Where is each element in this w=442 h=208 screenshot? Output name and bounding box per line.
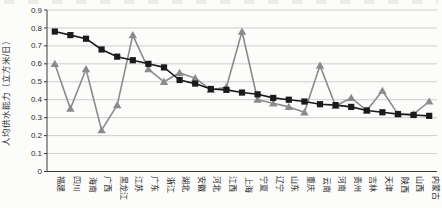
x-tick-label: 陕西 — [400, 177, 410, 193]
triangle-marker — [316, 62, 324, 69]
x-tick-label: 湖北 — [181, 177, 190, 193]
x-tick-label: 重庆 — [306, 177, 316, 193]
x-tick-label: 广东 — [150, 177, 160, 193]
x-axis-labels: 福建四川海南广西黑龙江江苏广东浙江湖北安徽河北江西上海宁夏辽宁山东重庆云南河南贵… — [56, 177, 440, 201]
square-marker — [239, 89, 245, 95]
y-tick-label: 0 — [38, 167, 43, 176]
y-tick-label: 0.1 — [31, 149, 43, 158]
triangle-marker — [66, 105, 74, 112]
y-tick-label: 0.5 — [31, 77, 43, 86]
square-marker — [426, 113, 432, 119]
scan-artifact-top — [4, 0, 438, 4]
square-marker — [223, 87, 229, 93]
triangle-marker — [129, 31, 137, 38]
y-tick-label: 0.4 — [31, 95, 43, 104]
square-marker — [364, 107, 370, 113]
series-square-black — [52, 28, 433, 119]
y-axis: 0.90.80.70.60.50.40.30.20.10 — [31, 6, 47, 177]
x-tick-label: 贵州 — [353, 177, 363, 193]
square-marker — [395, 111, 401, 117]
triangle-marker — [82, 65, 90, 72]
y-tick-label: 0.8 — [31, 24, 43, 33]
y-tick-label: 0.7 — [31, 41, 43, 50]
line-chart: 0.90.80.70.60.50.40.30.20.10 福建四川海南广西黑龙江… — [0, 0, 442, 208]
x-tick-label: 江苏 — [134, 177, 144, 193]
y-tick-label: 0.3 — [31, 113, 43, 122]
x-tick-label: 宁夏 — [259, 177, 269, 193]
square-marker — [255, 91, 261, 97]
square-marker — [301, 98, 307, 104]
triangle-marker — [425, 97, 433, 104]
scanned-chart-figure: 0.90.80.70.60.50.40.30.20.10 福建四川海南广西黑龙江… — [0, 0, 442, 208]
square-marker — [208, 86, 214, 92]
x-tick-label: 云南 — [322, 177, 332, 193]
triangle-marker — [238, 27, 246, 34]
x-tick-label: 山东 — [290, 177, 300, 193]
square-marker — [348, 104, 354, 110]
square-marker — [161, 64, 167, 70]
square-marker — [270, 95, 276, 101]
x-tick-label: 广西 — [103, 177, 113, 193]
square-marker — [99, 46, 105, 52]
x-tick-label: 辽宁 — [275, 177, 285, 193]
x-tick-label: 四川 — [72, 177, 81, 193]
square-marker — [177, 77, 183, 83]
triangle-marker — [347, 94, 355, 101]
x-tick-label: 安徽 — [197, 177, 207, 193]
square-marker — [114, 54, 120, 60]
x-tick-label: 黑龙江 — [119, 177, 129, 201]
y-tick-label: 0.2 — [31, 131, 43, 140]
triangle-marker — [175, 69, 183, 76]
y-axis-title: 人均供水能力（立方米/日） — [1, 36, 11, 146]
x-tick-label: 天津 — [384, 177, 394, 193]
square-marker — [52, 28, 58, 34]
square-marker — [286, 97, 292, 103]
x-tick-label: 河北 — [212, 177, 222, 193]
square-marker — [83, 36, 89, 42]
x-tick-label: 浙江 — [166, 177, 176, 193]
x-tick-label: 山西 — [415, 177, 425, 193]
square-marker — [130, 57, 136, 63]
x-tick-label: 江西 — [228, 177, 237, 193]
y-tick-label: 0.9 — [31, 6, 43, 15]
x-tick-label: 海南 — [88, 177, 98, 193]
triangle-marker — [113, 101, 121, 108]
triangle-marker — [378, 87, 386, 94]
square-marker — [145, 61, 151, 67]
x-tick-label: 吉林 — [368, 177, 378, 193]
square-marker — [411, 112, 417, 118]
square-marker — [379, 109, 385, 115]
x-tick-label: 河南 — [337, 177, 347, 193]
x-tick-label: 内蒙古 — [431, 177, 441, 201]
y-tick-label: 0.6 — [31, 59, 43, 68]
square-marker — [67, 32, 73, 38]
x-tick-label: 福建 — [56, 177, 66, 193]
square-marker — [333, 102, 339, 108]
x-tick-label: 上海 — [244, 177, 254, 193]
square-marker — [317, 101, 323, 107]
square-marker — [192, 80, 198, 86]
triangle-marker — [97, 126, 105, 133]
